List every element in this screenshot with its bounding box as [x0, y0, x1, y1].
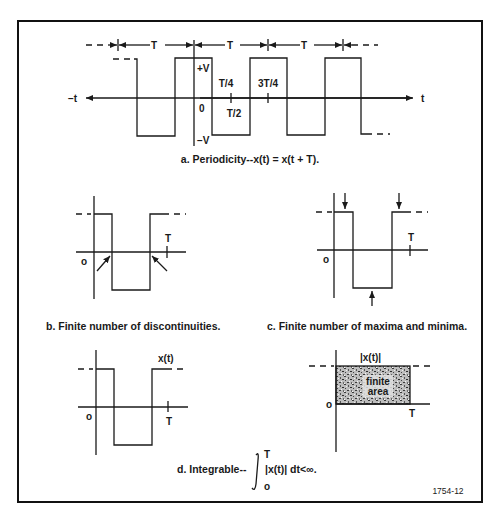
panel-a-periodicity: T T T −t t +V −V 0 T/4 T/2 3T/4 a. Perio… — [68, 39, 425, 165]
integral-lower-limit: o — [264, 481, 270, 492]
tick-label-t4: T/4 — [219, 78, 234, 89]
panel-d-integrable: x(t) o T finite area |x(t)| o T d. Integ… — [78, 350, 430, 492]
pos-time-label: t — [421, 93, 425, 104]
tick-label-3t4: 3T/4 — [258, 78, 278, 89]
integral-upper-limit: T — [264, 449, 270, 460]
period-label-1: T — [151, 40, 157, 51]
period-label-2: T — [227, 40, 233, 51]
origin-label-d-right: o — [326, 399, 332, 410]
caption-b: b. Finite number of discontinuities. — [46, 320, 221, 332]
tick-label-t2: T/2 — [227, 108, 242, 119]
minus-v-label: −V — [197, 135, 210, 146]
integral-sign — [252, 454, 258, 490]
origin-label: 0 — [199, 103, 205, 114]
caption-d-prefix: d. Integrable-- — [177, 463, 247, 475]
origin-label-b: o — [81, 256, 87, 267]
period-dimension-line: T T T — [86, 39, 378, 51]
figure-id-label: 1754-12 — [432, 486, 463, 496]
caption-a: a. Periodicity--x(t) = x(t + T). — [181, 153, 319, 165]
caption-c: c. Finite number of maxima and minima. — [267, 320, 467, 332]
discontinuity-arrow-1 — [97, 256, 110, 271]
neg-time-label: −t — [68, 93, 78, 104]
period-label-3: T — [301, 40, 307, 51]
square-wave — [134, 58, 366, 136]
area-label-line2: area — [368, 386, 389, 397]
origin-label-d-left: o — [86, 411, 92, 422]
integrand: |x(t)| dt<∞. — [265, 463, 317, 475]
period-label-d-left: T — [166, 416, 172, 427]
signal-label-abs-xt: |x(t)| — [360, 352, 381, 363]
period-label-b: T — [165, 233, 171, 244]
discontinuity-arrow-2 — [152, 256, 167, 271]
signal-label-xt: x(t) — [158, 353, 174, 364]
period-label-c: T — [408, 232, 414, 243]
origin-label-c: o — [323, 254, 329, 265]
period-label-d-right: T — [409, 408, 415, 419]
fourier-conditions-figure: T T T −t t +V −V 0 T/4 T/2 3T/4 a. Perio… — [0, 0, 502, 518]
panel-b-discontinuities: T o b. Finite number of discontinuities. — [46, 196, 221, 332]
panel-c-maxima-minima: T o c. Finite number of maxima and minim… — [267, 193, 467, 332]
plus-v-label: +V — [197, 63, 210, 74]
